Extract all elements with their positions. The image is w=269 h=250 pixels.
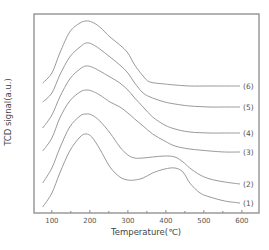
series-label-4: (4) xyxy=(243,129,254,138)
tpd-chart: 100200300400500600 (1)(2)(3)(4)(5)(6) Te… xyxy=(0,0,269,250)
x-axis-label: Temperature(℃) xyxy=(110,227,181,237)
x-tick-label: 400 xyxy=(159,217,172,225)
series-label-5: (5) xyxy=(243,103,254,112)
x-axis-tick-labels: 100200300400500600 xyxy=(45,217,248,225)
x-tick-label: 600 xyxy=(235,217,248,225)
x-tick-label: 300 xyxy=(121,217,134,225)
series-label-3: (3) xyxy=(243,148,254,157)
series-curves xyxy=(43,21,240,207)
y-axis-label: TCD signal(a.u.) xyxy=(3,78,13,147)
series-label-6: (6) xyxy=(243,82,254,91)
series-label-1: (1) xyxy=(243,199,254,208)
x-tick-label: 500 xyxy=(197,217,210,225)
x-tick-label: 200 xyxy=(83,217,96,225)
series-labels: (1)(2)(3)(4)(5)(6) xyxy=(243,82,254,208)
plot-frame xyxy=(34,14,259,213)
series-curve-3 xyxy=(43,90,240,152)
x-tick-label: 100 xyxy=(45,217,58,225)
series-curve-1 xyxy=(43,134,240,207)
series-label-2: (2) xyxy=(243,180,254,189)
